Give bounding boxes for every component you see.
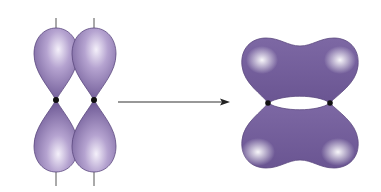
reaction-arrow [118, 99, 230, 106]
bottom-lobe [72, 100, 116, 172]
pi-bond-bottom-lobe [241, 103, 358, 168]
bottom-lobe [34, 100, 78, 172]
pi-bond-diagram [0, 0, 381, 192]
nucleus-right-2 [327, 100, 333, 106]
pi-bond-top-lobe [242, 38, 358, 103]
top-lobe [34, 28, 78, 100]
nucleus-left-2 [91, 97, 97, 103]
nucleus-left-1 [53, 97, 59, 103]
top-lobe [72, 28, 116, 100]
nucleus-right-1 [265, 100, 271, 106]
